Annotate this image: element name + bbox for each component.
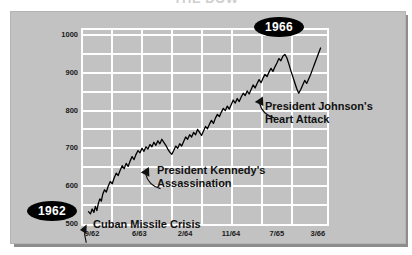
y-tick-600: 600 [65,181,78,190]
data-series-line [81,28,329,226]
y-tick-800: 800 [65,105,78,114]
annotation-kennedy-assassination: President Kennedy's Assassination [157,164,265,189]
annotation-label-line2: Heart Attack [265,113,373,126]
annotation-label-line1: President Kennedy's [157,164,265,177]
x-axis-labels: 9/62 6/63 2/64 11/64 7/65 3/66 [81,229,329,243]
year-badge-1966: 1966 [254,17,304,37]
year-badge-1962: 1962 [27,201,77,221]
x-tick-4: 7/65 [270,229,285,238]
y-axis-labels: 1000 900 800 700 600 500 [51,28,78,226]
annotation-cuban-missile-crisis: Cuban Missile Crisis [93,218,201,231]
y-tick-1000: 1000 [61,30,78,39]
annotation-johnson-heart-attack: President Johnson's Heart Attack [265,100,373,125]
y-tick-900: 900 [65,67,78,76]
annotation-label: Cuban Missile Crisis [93,218,201,230]
annotation-label-line1: President Johnson's [265,100,373,113]
plot-area [81,28,329,226]
page-title: THE DOW [0,0,412,6]
x-tick-3: 11/64 [222,229,240,238]
annotation-label-line2: Assassination [157,177,265,190]
y-tick-500: 500 [65,218,78,227]
x-tick-5: 3/66 [311,229,326,238]
chart-panel: 1000 900 800 700 600 500 [10,11,406,244]
y-tick-700: 700 [65,143,78,152]
chart-screenshot: THE DOW 1000 900 800 700 600 500 [0,0,412,255]
title-strip: THE DOW [0,0,412,9]
